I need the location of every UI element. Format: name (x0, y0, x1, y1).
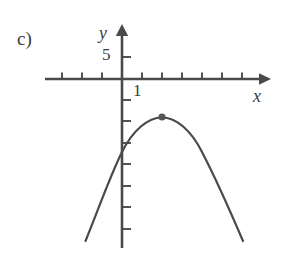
y-axis (116, 24, 131, 248)
parabola-curve (86, 118, 244, 242)
y-axis-label: y (99, 24, 107, 42)
x-axis (45, 73, 271, 85)
y-tick-label-5: 5 (102, 46, 111, 63)
vertex-point-marker (158, 113, 165, 120)
panel-label: c) (17, 29, 32, 48)
graph-figure: c) y x 5 1 (0, 0, 285, 255)
x-axis-label: x (253, 87, 261, 105)
x-tick-label-1: 1 (133, 82, 142, 99)
x-axis-arrowhead (259, 73, 271, 85)
y-axis-arrowhead (116, 24, 128, 36)
coordinate-plane (0, 0, 285, 255)
